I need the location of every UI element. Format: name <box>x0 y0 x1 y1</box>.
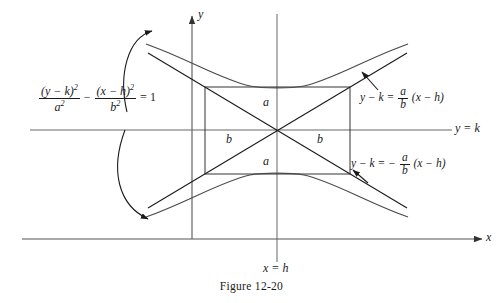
asymptote-positive-slope-fraction: a b <box>398 86 408 110</box>
hyperbola-figure: (y − k)2 a2 − (x − h)2 b2 = 1 y − k = a … <box>0 0 503 303</box>
asymptote-negative-slope-numerator: a <box>400 152 410 165</box>
equation-first-denominator: a2 <box>39 99 80 113</box>
x-axis-label: x <box>486 231 491 243</box>
equation-second-denominator: b2 <box>95 99 137 113</box>
line-x-equals-h-label: x = h <box>263 262 288 274</box>
asymptote-positive-lead: y − k = <box>360 91 394 103</box>
asymptote-positive-slope-denominator: b <box>398 99 408 111</box>
asymptote-negative-slope-fraction: a b <box>400 152 410 176</box>
equation-equals-one: = 1 <box>140 90 156 104</box>
asymptote-negative-equation: y − k = − a b (x − h) <box>351 152 446 176</box>
dimension-label-a-bottom: a <box>263 155 269 167</box>
equation-second-numerator: (x − h)2 <box>95 84 137 99</box>
dimension-label-b-right: b <box>317 133 323 145</box>
asymptote-positive-slope-numerator: a <box>398 86 408 99</box>
coordinate-axes <box>22 16 482 239</box>
figure-caption: Figure 12-20 <box>0 281 503 293</box>
asymptote-negative-lead: y − k = − <box>351 157 396 169</box>
asymptote-negative-tail: (x − h) <box>414 157 446 169</box>
line-y-equals-k-label: y = k <box>455 122 480 134</box>
y-axis-label: y <box>198 8 203 20</box>
asymptote-positive-tail: (x − h) <box>412 91 444 103</box>
dimension-label-a-top: a <box>263 96 269 108</box>
equation-first-fraction: (y − k)2 a2 <box>39 84 80 113</box>
dimension-label-b-left: b <box>226 133 232 145</box>
hyperbola-equation: (y − k)2 a2 − (x − h)2 b2 = 1 <box>38 84 156 113</box>
equation-first-numerator: (y − k)2 <box>39 84 80 99</box>
equation-second-fraction: (x − h)2 b2 <box>95 84 137 113</box>
asymptote-negative-slope-denominator: b <box>400 165 410 177</box>
asymptote-positive-equation: y − k = a b (x − h) <box>360 86 444 110</box>
leader-arrow-to-lower-branch <box>118 130 148 219</box>
equation-operator: − <box>84 90 91 104</box>
equation-leader-arrows <box>118 31 152 219</box>
